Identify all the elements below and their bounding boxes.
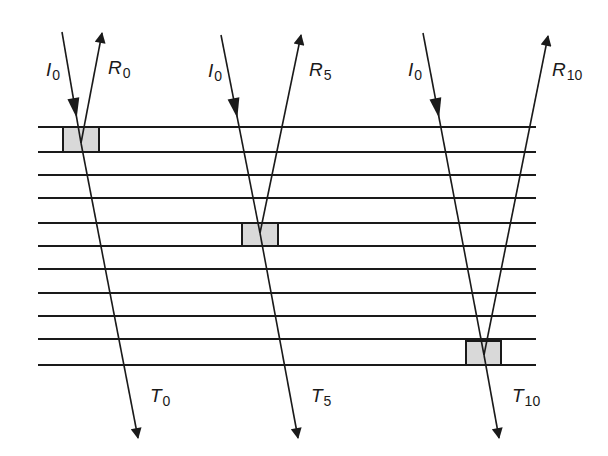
label-subscript: 10 xyxy=(567,67,583,83)
incident-label: I0 xyxy=(408,60,422,82)
rays xyxy=(62,32,548,438)
transmitted-label: T5 xyxy=(311,386,331,408)
label-subscript: 5 xyxy=(324,393,332,409)
label-subscript: 0 xyxy=(214,68,222,84)
reflected-ray xyxy=(260,35,301,233)
layer-lines xyxy=(38,127,536,365)
label-symbol: R xyxy=(108,57,122,78)
label-symbol: R xyxy=(309,59,323,80)
label-subscript: 0 xyxy=(52,67,60,83)
label-symbol: I xyxy=(208,60,213,81)
label-symbol: R xyxy=(552,59,566,80)
transmitted-ray xyxy=(484,355,499,438)
incident-ray xyxy=(423,33,484,355)
transmitted-ray xyxy=(260,233,298,438)
label-subscript: 0 xyxy=(123,65,131,81)
arrowhead-icon xyxy=(429,97,441,118)
label-subscript: 10 xyxy=(525,393,541,409)
incident-label: I0 xyxy=(208,61,222,83)
arrowhead-icon xyxy=(228,97,240,118)
reflected-label: R5 xyxy=(309,60,332,82)
transmitted-label: T10 xyxy=(512,386,540,408)
incident-ray xyxy=(221,35,260,233)
label-symbol: T xyxy=(512,385,524,406)
reflected-label: R10 xyxy=(552,60,582,82)
transmitted-label: T0 xyxy=(150,386,170,408)
transmitted-ray xyxy=(81,143,138,438)
incident-label: I0 xyxy=(46,60,60,82)
arrowhead-icon xyxy=(67,97,79,118)
label-symbol: T xyxy=(150,385,162,406)
label-subscript: 5 xyxy=(324,67,332,83)
label-subscript: 0 xyxy=(414,67,422,83)
label-symbol: I xyxy=(46,59,51,80)
reflected-label: R0 xyxy=(108,58,131,80)
reflected-ray xyxy=(484,36,548,355)
label-symbol: I xyxy=(408,59,413,80)
label-subscript: 0 xyxy=(163,393,171,409)
label-symbol: T xyxy=(311,385,323,406)
